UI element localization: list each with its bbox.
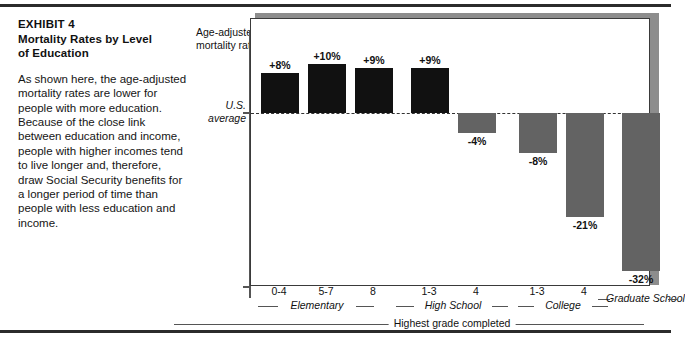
bar-2 bbox=[308, 64, 346, 114]
x-tick-label-7: 4 bbox=[559, 285, 609, 297]
group-label-graduate-school: Graduate School bbox=[606, 292, 668, 304]
group-rule-left-high-school bbox=[396, 306, 414, 307]
bar-3 bbox=[355, 68, 393, 113]
x-axis-title: Highest grade completed bbox=[389, 317, 516, 329]
bar-value-label-5: -4% bbox=[452, 135, 502, 147]
y-axis-tick-bottom bbox=[243, 286, 250, 288]
x-tick-label-3: 8 bbox=[348, 285, 398, 297]
bar-series: +8%+10%+9%+9%-4%-8%-21%-32% bbox=[251, 19, 651, 287]
group-rule-left-elementary bbox=[258, 306, 278, 307]
bar-chart: +8%+10%+9%+9%-4%-8%-21%-32% bbox=[250, 18, 654, 290]
exhibit-title-line-1: Mortality Rates by Level bbox=[18, 32, 188, 47]
group-label-high-school: High School bbox=[414, 300, 492, 312]
x-tick-label-6: 1-3 bbox=[512, 285, 562, 297]
group-rule-right-elementary bbox=[356, 306, 374, 307]
group-rule-right-high-school bbox=[492, 306, 508, 307]
bar-8 bbox=[622, 113, 660, 271]
bar-5 bbox=[458, 113, 496, 133]
bar-value-label-2: +10% bbox=[302, 50, 352, 62]
bar-value-label-4: +9% bbox=[405, 54, 455, 66]
x-tick-label-1: 0-4 bbox=[254, 285, 304, 297]
group-rule-left-college bbox=[518, 306, 534, 307]
bar-1 bbox=[261, 73, 299, 113]
group-label-elementary: Elementary bbox=[278, 300, 356, 312]
plot-area: +8%+10%+9%+9%-4%-8%-21%-32% bbox=[250, 18, 650, 286]
y-axis-tick-baseline bbox=[243, 112, 250, 114]
baseline-label: U.S. average bbox=[184, 99, 246, 125]
exhibit-title-line-2: of Education bbox=[18, 46, 188, 61]
x-axis-title-band: Highest grade completed bbox=[250, 318, 654, 332]
group-label-college: College bbox=[534, 300, 592, 312]
x-tick-label-4: 1-3 bbox=[404, 285, 454, 297]
bar-7 bbox=[566, 113, 604, 217]
bar-6 bbox=[519, 113, 557, 153]
bar-value-label-6: -8% bbox=[513, 155, 563, 167]
top-divider-rule bbox=[0, 4, 671, 7]
group-rule-right-graduate bbox=[668, 299, 678, 300]
exhibit-text-column: EXHIBIT 4 Mortality Rates by Level of Ed… bbox=[18, 17, 188, 230]
baseline-label-line-1: U.S. bbox=[184, 99, 246, 112]
group-label-graduate: Graduate School bbox=[606, 292, 685, 304]
exhibit-number: EXHIBIT 4 bbox=[18, 17, 188, 32]
x-tick-label-5: 4 bbox=[451, 285, 501, 297]
bar-value-label-8: -32% bbox=[616, 273, 666, 285]
baseline-label-line-2: average bbox=[184, 112, 246, 125]
bar-value-label-3: +9% bbox=[349, 54, 399, 66]
bar-value-label-1: +8% bbox=[255, 59, 305, 71]
bar-value-label-7: -21% bbox=[560, 219, 610, 231]
group-rule-right-college bbox=[592, 306, 608, 307]
x-axis-tick-labels: 0-45-781-341-34 bbox=[250, 285, 654, 299]
x-tick-label-2: 5-7 bbox=[301, 285, 351, 297]
exhibit-description: As shown here, the age-adjusted mortalit… bbox=[18, 72, 188, 230]
bar-4 bbox=[411, 68, 449, 113]
